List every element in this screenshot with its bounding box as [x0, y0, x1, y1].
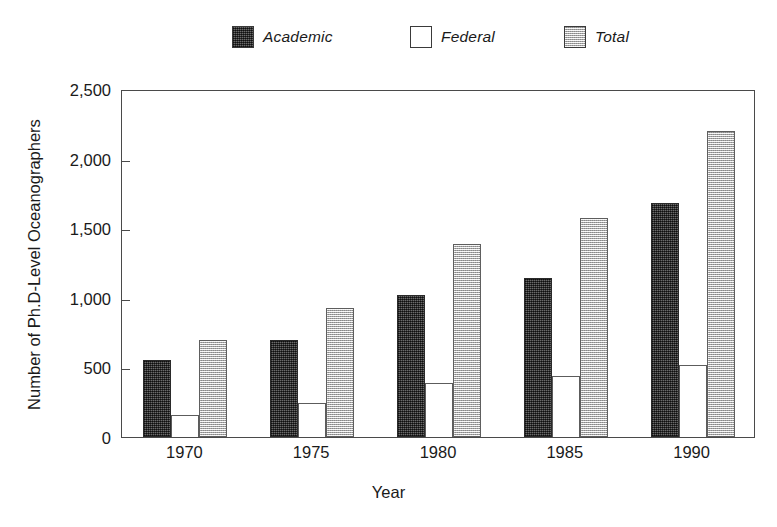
bar-academic-1975 [270, 340, 298, 437]
bar-academic-1990 [651, 203, 679, 437]
x-axis-tick-label: 1980 [420, 443, 457, 462]
y-axis-tick-labels: 05001,0001,5002,0002,500 [0, 0, 121, 527]
bar-federal-1990 [679, 365, 707, 437]
bar-total-1985 [580, 218, 608, 437]
bar-total-1980 [453, 244, 481, 437]
x-axis-title: Year [0, 483, 777, 502]
legend-label: Total [595, 28, 629, 46]
bar-academic-1980 [397, 295, 425, 437]
legend-swatch-academic-icon [232, 26, 254, 48]
x-axis-tick-label: 1985 [546, 443, 583, 462]
legend-item-total: Total [564, 26, 629, 48]
legend-item-academic: Academic [232, 26, 333, 48]
bar-total-1975 [326, 308, 354, 437]
chart-canvas: AcademicFederalTotal Number of Ph.D-Leve… [0, 0, 777, 527]
x-axis-tick-label: 1975 [293, 443, 330, 462]
x-axis-tick-label: 1990 [673, 443, 710, 462]
bar-academic-1970 [143, 360, 171, 437]
plot-area [121, 90, 755, 438]
bar-total-1970 [199, 340, 227, 437]
y-axis-tick-label: 2,500 [70, 81, 111, 100]
x-axis-tick-labels: 19701975198019851990 [121, 443, 755, 471]
y-axis-tick-label: 1,000 [70, 289, 111, 308]
y-axis-tick-label: 500 [83, 359, 111, 378]
bars-layer [122, 91, 754, 437]
legend-label: Academic [263, 28, 333, 46]
y-axis-tick-label: 1,500 [70, 220, 111, 239]
x-axis-tick-label: 1970 [166, 443, 203, 462]
y-axis-tick-label: 0 [102, 429, 111, 448]
legend-item-federal: Federal [410, 26, 495, 48]
legend-label: Federal [441, 28, 495, 46]
y-axis-tick-label: 2,000 [70, 150, 111, 169]
bar-academic-1985 [524, 278, 552, 437]
bar-federal-1975 [298, 403, 326, 437]
bar-federal-1970 [171, 415, 199, 437]
bar-total-1990 [707, 131, 735, 437]
bar-federal-1980 [425, 383, 453, 437]
legend-swatch-total-icon [564, 26, 586, 48]
legend-swatch-federal-icon [410, 26, 432, 48]
bar-federal-1985 [552, 376, 580, 437]
